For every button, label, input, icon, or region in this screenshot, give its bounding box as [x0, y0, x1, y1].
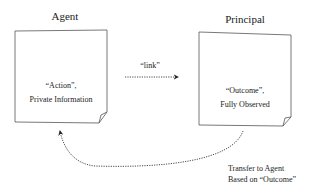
agent-action-label: “Action”, [15, 80, 107, 91]
principal-box [199, 32, 291, 126]
transfer-arrow [60, 131, 243, 166]
principal-title: Principal [220, 13, 270, 25]
principal-fully-observed-label: Fully Observed [199, 99, 291, 110]
agent-private-info-label: Private Information [15, 94, 107, 105]
agent-box [15, 30, 107, 123]
transfer-label-line1: Transfer to Agent [228, 163, 313, 174]
agent-title: Agent [40, 10, 90, 22]
transfer-label-line2: Based on “Outcome” [228, 174, 313, 185]
link-label: “link” [130, 60, 170, 71]
principal-outcome-label: “Outcome”, [199, 85, 291, 96]
diagram-canvas: Agent “Action”, Private Information Prin… [0, 0, 313, 196]
